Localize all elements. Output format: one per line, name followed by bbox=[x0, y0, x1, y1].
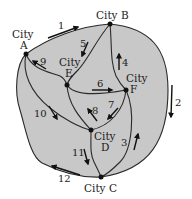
road-label-1: 1 bbox=[58, 20, 64, 31]
road-label-2: 2 bbox=[175, 97, 181, 108]
city-c-node bbox=[99, 175, 104, 180]
city-b-label: City B bbox=[96, 9, 129, 21]
city-e-node bbox=[65, 83, 70, 88]
city-d-node bbox=[89, 128, 94, 133]
city-a-label-line2: A bbox=[19, 39, 28, 51]
road-label-7: 7 bbox=[108, 99, 114, 110]
road-label-10: 10 bbox=[34, 108, 47, 119]
city-e-label-line2: E bbox=[65, 67, 73, 79]
road-label-5: 5 bbox=[80, 38, 86, 49]
road-network-diagram: 1 2 3 4 5 6 7 8 9 10 11 12 City A City B… bbox=[0, 0, 192, 199]
road-label-6: 6 bbox=[97, 78, 103, 89]
city-f-label-line2: F bbox=[130, 83, 137, 95]
road-label-12: 12 bbox=[58, 173, 71, 184]
arrow-2-icon bbox=[171, 85, 172, 117]
city-a-node bbox=[24, 52, 29, 57]
city-b-node bbox=[108, 22, 113, 27]
road-label-4: 4 bbox=[122, 57, 128, 68]
city-f-node bbox=[124, 88, 129, 93]
road-label-8: 8 bbox=[92, 105, 98, 116]
road-label-3: 3 bbox=[121, 137, 127, 148]
region-shape bbox=[17, 24, 168, 177]
road-label-9: 9 bbox=[40, 56, 46, 67]
city-d-label-line2: D bbox=[101, 141, 109, 153]
road-label-11: 11 bbox=[72, 147, 85, 158]
city-c-label: City C bbox=[84, 182, 117, 194]
